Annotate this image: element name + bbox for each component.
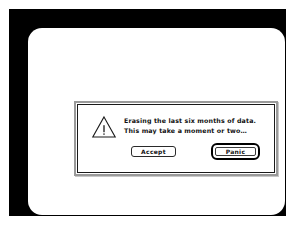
screen-surface: Erasing the last six months of data. Thi… <box>28 28 285 215</box>
accept-button[interactable]: Accept <box>131 146 176 157</box>
alert-message-line-2: This may take a moment or two… <box>124 126 272 136</box>
alert-dialog-inner-frame: Erasing the last six months of data. Thi… <box>77 104 275 173</box>
alert-dialog: Erasing the last six months of data. Thi… <box>74 101 278 176</box>
warning-triangle-icon <box>91 115 117 139</box>
alert-message-line-1: Erasing the last six months of data. <box>124 116 272 126</box>
panic-button[interactable]: Panic <box>215 147 256 156</box>
panic-button-default-ring[interactable]: Panic <box>211 143 260 160</box>
alert-button-row: Accept Panic <box>78 143 274 165</box>
alert-message: Erasing the last six months of data. Thi… <box>124 116 272 135</box>
crt-bezel: Erasing the last six months of data. Thi… <box>9 9 286 216</box>
